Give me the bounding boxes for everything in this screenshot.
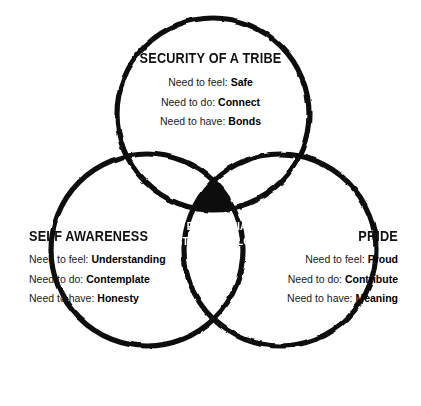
set-self-row-do: Need to do: Contemplate [29,274,214,285]
row-prefix: Need to feel: [29,253,89,265]
row-prefix: Need to do: [161,96,215,108]
intersection-line-1: EUDEMONIA [167,219,268,234]
row-prefix: Need to do: [288,273,342,285]
row-value: Meaning [355,292,398,304]
row-value: Contemplate [86,273,150,285]
set-tribe: SECURITY OF A TRIBE Need to feel: Safe N… [0,50,421,136]
row-value: Understanding [91,253,165,265]
row-prefix: Need to have: [160,115,225,127]
set-tribe-row-do: Need to do: Connect [0,97,421,108]
set-self-row-have: Need to have: Honesty [29,293,214,304]
row-value: Honesty [97,292,138,304]
row-prefix: Need to feel: [168,76,228,88]
set-tribe-row-have: Need to have: Bonds [0,116,421,127]
row-value: Bonds [228,115,261,127]
set-pride-row-feel: Need to feel: Proud [208,254,398,265]
row-prefix: Need to have: [29,292,94,304]
set-pride-row-do: Need to do: Contribute [208,274,398,285]
set-self-row-feel: Need to feel: Understanding [29,254,214,265]
row-value: Connect [218,96,260,108]
row-prefix: Need to feel: [305,253,365,265]
row-value: Safe [231,76,253,88]
intersection-line-2: STRESS TEFLON [167,234,268,249]
row-value: Proud [368,253,398,265]
set-pride-row-have: Need to have: Meaning [208,293,398,304]
row-value: Contribute [345,273,398,285]
row-prefix: Need to have: [287,292,352,304]
intersection-label: EUDEMONIA STRESS TEFLON [157,219,277,248]
set-tribe-heading: SECURITY OF A TRIBE [38,50,383,66]
venn-diagram: SECURITY OF A TRIBE Need to feel: Safe N… [0,0,421,406]
set-tribe-row-feel: Need to feel: Safe [0,77,421,88]
row-prefix: Need to do: [29,273,83,285]
